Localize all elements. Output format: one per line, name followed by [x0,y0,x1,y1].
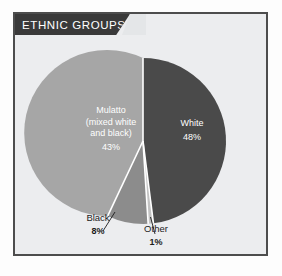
chart-title-banner: ETHNIC GROUPS [15,14,130,35]
ethnic-groups-chart-card: ETHNIC GROUPS [13,12,268,256]
pie-label-black: Black 8% [71,212,125,237]
pie-value-other: 1% [129,236,183,248]
pie-chart-svg [15,35,266,254]
pie-value-black: 8% [71,225,125,237]
pie-label-other-text: Other [144,223,168,234]
page-title: ETHNIC GROUPS [15,19,126,31]
pie-chart: Mulatto (mixed white and black) 43% Whit… [15,35,266,254]
pie-slice-white[interactable] [143,58,226,223]
pie-label-black-text: Black [86,212,109,223]
pie-label-other: Other 1% [129,223,183,248]
screenshot-root: ETHNIC GROUPS [0,0,282,276]
